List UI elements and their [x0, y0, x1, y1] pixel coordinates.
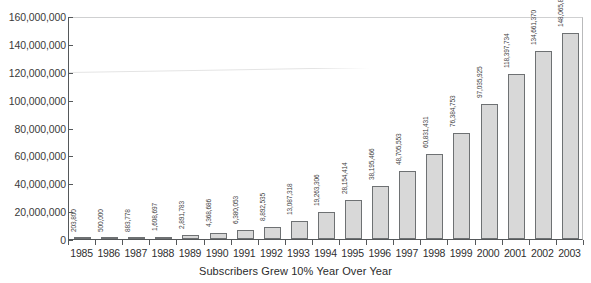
bar-value-label: 148,065,824 [557, 0, 564, 27]
x-axis-tick-mark [502, 240, 503, 245]
x-axis-tick-mark [312, 240, 313, 245]
x-axis-tick-mark [556, 240, 557, 245]
x-axis-tick-mark [583, 240, 584, 245]
bar-value-label: 28,154,414 [341, 162, 348, 194]
bar [237, 230, 254, 239]
bar-group: 148,065,824 [557, 16, 584, 239]
bar-group: 60,831,431 [421, 16, 448, 239]
bar-group: 134,661,370 [530, 16, 557, 239]
y-axis-tick-label: 100,000,000 [3, 96, 66, 106]
y-axis-tick-label: 160,000,000 [3, 12, 66, 22]
y-axis-tick-mark [68, 73, 73, 74]
bar-value-label: 883,778 [124, 209, 131, 232]
y-axis-tick-mark [68, 17, 73, 18]
bar [345, 200, 362, 239]
x-axis-tick-mark [149, 240, 150, 245]
y-axis-tick-mark [68, 45, 73, 46]
x-axis-tick-mark [285, 240, 286, 245]
bar-group: 118,397,734 [503, 16, 530, 239]
y-axis-tick-label: 80,000,000 [3, 124, 66, 134]
bar [74, 237, 91, 239]
bar-value-label: 60,831,431 [422, 117, 429, 149]
bar-value-label: 48,705,553 [395, 134, 402, 166]
bar-group: 19,263,306 [313, 16, 340, 239]
y-axis-tick-label: 60,000,000 [3, 151, 66, 161]
y-axis-tick-mark [68, 240, 73, 241]
bar-group: 76,384,753 [448, 16, 475, 239]
plot-area: 203,800500,000883,7781,608,6972,891,7834… [68, 17, 583, 240]
bar-group: 203,800 [69, 16, 96, 239]
bar-group: 8,892,535 [259, 16, 286, 239]
bar [399, 171, 416, 239]
bar-value-label: 13,087,318 [286, 183, 293, 215]
bar [291, 221, 308, 239]
bar-group: 2,891,783 [177, 16, 204, 239]
bar-value-label: 19,263,306 [313, 175, 320, 207]
bar [562, 33, 579, 239]
x-axis-tick-mark [529, 240, 530, 245]
y-axis-tick-mark [68, 101, 73, 102]
x-axis-tick-mark [339, 240, 340, 245]
bar-value-label: 76,384,753 [449, 95, 456, 127]
bar-series: 203,800500,000883,7781,608,6972,891,7834… [69, 18, 582, 239]
x-axis-tick-mark [393, 240, 394, 245]
bar-group: 28,154,414 [340, 16, 367, 239]
bar-value-label: 2,891,783 [178, 201, 185, 229]
y-axis-tick-mark [68, 129, 73, 130]
y-axis-tick-label: 120,000,000 [3, 68, 66, 78]
bar-group: 13,087,318 [286, 16, 313, 239]
bar-value-label: 97,035,925 [476, 66, 483, 98]
bar-group: 97,035,925 [476, 16, 503, 239]
bar-value-label: 8,892,535 [259, 193, 266, 221]
bar-value-label: 4,368,686 [205, 199, 212, 227]
bar-group: 1,608,697 [150, 16, 177, 239]
y-axis-tick-mark [68, 184, 73, 185]
bar-group: 883,778 [123, 16, 150, 239]
y-axis-tick-label: 20,000,000 [3, 207, 66, 217]
bar-value-label: 1,608,697 [151, 203, 158, 231]
x-axis-tick-mark [204, 240, 205, 245]
bar [210, 233, 227, 239]
bar [264, 227, 281, 239]
bar [372, 186, 389, 239]
x-axis-tick-mark [258, 240, 259, 245]
x-axis-tick-label: 2003 [549, 247, 589, 259]
bar [426, 154, 443, 239]
x-axis-tick-mark [447, 240, 448, 245]
y-axis-tick-mark [68, 156, 73, 157]
x-axis-tick-mark [95, 240, 96, 245]
bar-value-label: 38,195,466 [368, 148, 375, 180]
x-axis-tick-mark [420, 240, 421, 245]
bar [101, 237, 118, 239]
bar-group: 38,195,466 [367, 16, 394, 239]
bar-value-label: 6,380,053 [232, 196, 239, 224]
bar [508, 74, 525, 239]
y-axis: 160,000,000140,000,000120,000,000100,000… [0, 0, 66, 283]
bar-chart: 160,000,000140,000,000120,000,000100,000… [0, 0, 591, 283]
bar [453, 133, 470, 239]
bar-value-label: 134,661,370 [530, 10, 537, 45]
bar-value-label: 500,000 [97, 209, 104, 232]
y-axis-tick-label: 0 [3, 235, 66, 245]
y-axis-tick-label: 140,000,000 [3, 40, 66, 50]
bar-group: 6,380,053 [232, 16, 259, 239]
bar [535, 51, 552, 239]
bar-group: 500,000 [96, 16, 123, 239]
bar [128, 237, 145, 239]
x-axis-title: Subscribers Grew 10% Year Over Year [0, 264, 591, 278]
bar [182, 235, 199, 239]
bar [318, 212, 335, 239]
x-axis-tick-mark [475, 240, 476, 245]
bar [155, 237, 172, 239]
bar-group: 48,705,553 [394, 16, 421, 239]
x-axis-tick-mark [231, 240, 232, 245]
bar-value-label: 118,397,734 [503, 33, 510, 68]
y-axis-tick-mark [68, 212, 73, 213]
bar-group: 4,368,686 [205, 16, 232, 239]
x-axis-tick-mark [366, 240, 367, 245]
bar [481, 104, 498, 239]
y-axis-tick-label: 40,000,000 [3, 179, 66, 189]
x-axis-tick-mark [176, 240, 177, 245]
x-axis-tick-mark [122, 240, 123, 245]
